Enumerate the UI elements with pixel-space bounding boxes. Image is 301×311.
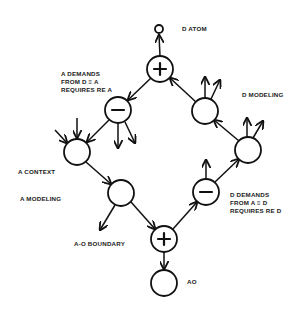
edge-top-plus-to-d-atom <box>159 35 160 56</box>
edge-right-minus-to-right-lower <box>215 159 239 182</box>
edge-a-context-to-a-modeling <box>86 162 111 184</box>
edge-left-minus-to-a-context <box>87 120 109 142</box>
edge-bottom-plus-to-right-minus <box>173 202 197 229</box>
node-right-lower <box>235 137 261 163</box>
node-top-plus <box>147 56 173 82</box>
label-d-demands-line2: FROM A ≡ D <box>230 199 268 206</box>
label-a-demands-line3: REQUIRES RE A <box>61 86 113 93</box>
nodes <box>64 25 261 296</box>
node-a-modeling <box>108 180 134 206</box>
node-right-minus <box>193 179 219 205</box>
label-d-demands-line1: D DEMANDS <box>230 191 269 198</box>
arrow-a-modeling-out <box>100 205 115 230</box>
edge-a-modeling-to-bottom-plus <box>131 202 155 229</box>
label-a-context: A CONTEXT <box>18 168 55 175</box>
node-d-atom <box>155 25 163 33</box>
label-a-demands-line1: A DEMANDS <box>61 70 100 77</box>
label-d-atom: D ATOM <box>182 25 207 32</box>
label-a-demands-line2: FROM D ≡ A <box>61 78 99 85</box>
arrow-a-context-in-2 <box>55 130 67 143</box>
arrow-right-lower-out-2 <box>253 121 263 138</box>
arrow-left-minus-out-2 <box>125 122 135 143</box>
label-a-modeling: A MODELING <box>20 195 61 202</box>
label-ao: AO <box>187 278 197 285</box>
edge-top-plus-to-left-minus <box>128 78 151 100</box>
label-d-demands-line3: REQUIRES RE D <box>230 207 282 214</box>
node-a-context <box>64 139 90 165</box>
signed-flow-diagram: D ATOM A DEMANDS FROM D ≡ A REQUIRES RE … <box>0 0 301 311</box>
node-left-minus <box>105 97 131 123</box>
node-bottom-plus <box>151 226 177 252</box>
node-ao <box>151 270 177 296</box>
node-d-modeling <box>192 98 218 124</box>
label-a-o-boundary: A-O BOUNDARY <box>74 240 126 247</box>
label-d-modeling: D MODELING <box>242 91 284 98</box>
arrow-d-modeling-out-2 <box>211 80 220 99</box>
edge-d-modeling-to-top-plus <box>170 78 196 102</box>
edge-right-lower-to-d-modeling <box>214 120 239 141</box>
